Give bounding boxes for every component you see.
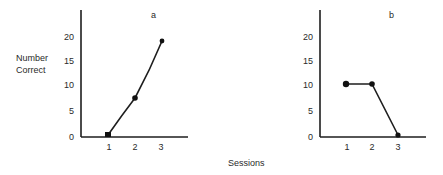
svg-text:3: 3 [158,142,163,152]
panel-b: b 0 5 10 15 20 1 2 3 [303,10,426,152]
panel-a-point-1 [105,132,111,137]
panel-b-point-3 [395,132,400,137]
svg-text:1: 1 [106,142,111,152]
panel-a-y-ticks: 0 5 10 15 20 [64,32,74,142]
svg-text:0: 0 [69,132,74,142]
svg-text:10: 10 [64,80,74,90]
svg-text:5: 5 [69,106,74,116]
panel-a-title: a [151,10,156,20]
panel-a: a 0 5 10 15 20 1 2 3 [64,10,188,152]
panel-b-y-ticks: 0 5 10 15 20 [303,32,313,142]
panel-b-x-ticks: 1 2 3 [344,142,400,152]
panel-a-series-line [108,41,162,135]
svg-text:15: 15 [64,56,74,66]
svg-text:2: 2 [132,142,137,152]
x-axis-label: Sessions [228,158,265,168]
panel-b-point-2 [369,81,375,87]
svg-text:5: 5 [308,106,313,116]
panel-b-point-1 [343,81,349,87]
panel-a-x-ticks: 1 2 3 [106,142,163,152]
svg-text:20: 20 [303,32,313,42]
svg-text:15: 15 [303,56,313,66]
svg-text:2: 2 [369,142,374,152]
chart-figure: Number Correct Sessions a 0 5 10 15 20 1… [0,0,443,175]
panel-b-series-line [346,84,398,135]
panel-a-point-2 [132,95,138,101]
svg-text:1: 1 [344,142,349,152]
panel-b-title: b [389,10,394,20]
svg-text:3: 3 [395,142,400,152]
svg-text:0: 0 [308,132,313,142]
y-axis-label-line2: Correct [16,65,46,75]
panel-a-point-3 [160,39,165,44]
svg-text:10: 10 [303,80,313,90]
y-axis-label-line1: Number [16,53,48,63]
svg-text:20: 20 [64,32,74,42]
